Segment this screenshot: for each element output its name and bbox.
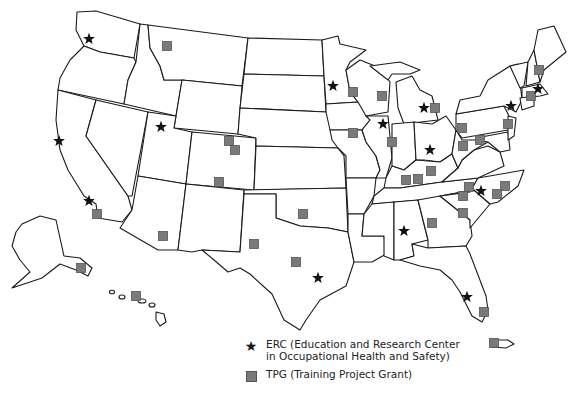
state-florida	[400, 244, 488, 322]
tpg-marker	[459, 192, 468, 201]
state-wyoming	[174, 80, 242, 134]
tpg-marker	[459, 209, 468, 218]
tpg-marker	[159, 232, 168, 241]
tpg-marker	[292, 258, 301, 267]
tpg-marker	[527, 92, 536, 101]
tpg-marker	[402, 176, 411, 185]
legend-item-erc: ★ ERC (Education and Research Center in …	[244, 338, 460, 362]
square-icon	[244, 369, 258, 383]
state-north-dakota	[244, 38, 324, 76]
tpg-marker	[349, 88, 358, 97]
legend-tpg-label: TPG (Training Project Grant)	[266, 368, 412, 380]
tpg-marker	[225, 137, 234, 146]
tpg-marker	[93, 210, 102, 219]
tpg-marker	[535, 66, 544, 75]
tpg-marker	[458, 124, 467, 133]
map-legend: ★ ERC (Education and Research Center in …	[244, 338, 460, 389]
legend-erc-label-line1: ERC (Education and Research Center	[266, 338, 460, 350]
legend-erc-label-line2: in Occupational Health and Safety)	[266, 350, 460, 362]
tpg-marker	[132, 292, 141, 301]
tpg-marker	[299, 210, 308, 219]
tpg-marker	[77, 264, 86, 273]
tpg-marker	[504, 120, 513, 129]
tpg-marker	[231, 146, 240, 155]
tpg-marker	[250, 240, 259, 249]
tpg-marker	[476, 136, 485, 145]
tpg-marker	[349, 129, 358, 138]
tpg-marker	[480, 308, 489, 317]
tpg-marker	[163, 42, 172, 51]
state-new-mexico	[178, 184, 244, 252]
star-icon: ★	[244, 339, 258, 353]
state-montana	[148, 25, 248, 86]
tpg-marker	[427, 167, 436, 176]
state-alaska	[12, 216, 92, 288]
tpg-marker	[490, 339, 499, 348]
tpg-marker	[215, 178, 224, 187]
tpg-marker	[459, 142, 468, 151]
legend-item-tpg: TPG (Training Project Grant)	[244, 368, 460, 383]
state-south-dakota	[240, 74, 326, 112]
tpg-marker	[465, 183, 474, 192]
tpg-marker	[414, 175, 423, 184]
tpg-marker	[428, 219, 437, 228]
state-borders	[12, 11, 566, 348]
tpg-marker	[378, 92, 387, 101]
tpg-marker	[388, 138, 397, 147]
state-kansas	[254, 146, 346, 190]
tpg-marker	[493, 190, 502, 199]
tpg-marker	[431, 104, 440, 113]
